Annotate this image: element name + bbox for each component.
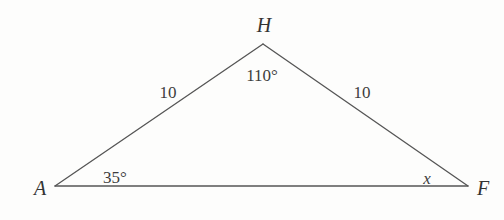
side-length-label-ah: 10 — [160, 84, 177, 101]
vertex-label-a: A — [34, 178, 46, 198]
geometry-diagram: A H F 10 10 110° 35° x — [0, 0, 504, 220]
vertex-label-f: F — [477, 178, 489, 198]
angle-label-h: 110° — [246, 67, 278, 84]
angle-label-a: 35° — [103, 169, 127, 186]
vertex-label-h: H — [257, 15, 271, 35]
triangle-edge-hf — [263, 44, 468, 186]
angle-label-f-unknown: x — [423, 170, 431, 187]
triangle-edge-ah — [55, 44, 263, 186]
side-length-label-hf: 10 — [354, 84, 371, 101]
